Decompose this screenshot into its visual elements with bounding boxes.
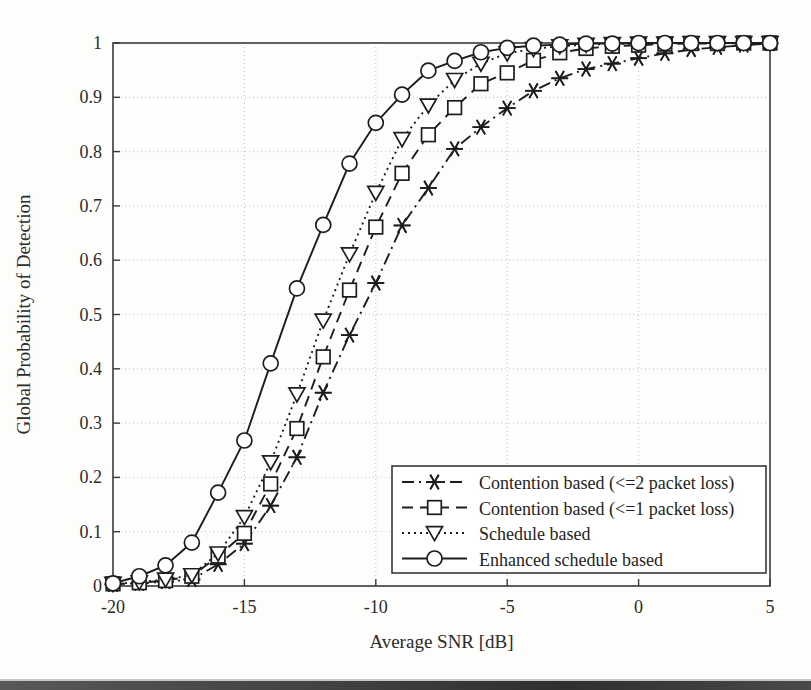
figure-page: 00.10.20.30.40.50.60.70.80.91-20-15-10-5… — [0, 0, 811, 690]
data-point-circle — [184, 535, 199, 550]
data-point-circle — [106, 576, 121, 591]
data-point-triangle-down — [420, 99, 436, 113]
x-tick-label: 5 — [766, 597, 775, 617]
chart-legend[interactable]: Contention based (<=2 packet loss)Conten… — [392, 466, 766, 573]
y-axis-title: Global Probability of Detection — [13, 194, 34, 435]
data-point-circle — [132, 569, 147, 584]
data-point-square — [395, 167, 409, 181]
x-tick-label: 0 — [634, 597, 643, 617]
y-tick-label: 0.3 — [80, 413, 103, 433]
data-point-circle — [316, 217, 331, 232]
y-tick-label: 0 — [93, 576, 102, 596]
y-tick-label: 1 — [93, 33, 102, 53]
y-tick-label: 0.7 — [80, 196, 103, 216]
data-point-square — [500, 66, 514, 80]
data-point-circle — [289, 281, 304, 296]
legend-label-1: Contention based (<=1 packet loss) — [479, 499, 734, 520]
data-point-circle — [395, 87, 410, 102]
data-point-circle — [710, 36, 725, 51]
data-point-circle — [526, 38, 541, 53]
square-icon — [428, 501, 442, 515]
data-point-circle — [447, 53, 462, 68]
data-point-circle — [605, 36, 620, 51]
y-tick-label: 0.9 — [80, 87, 103, 107]
data-point-circle — [552, 37, 567, 52]
data-point-triangle-down — [368, 186, 384, 200]
y-tick-label: 0.5 — [80, 305, 103, 325]
x-axis-title: Average SNR [dB] — [369, 631, 513, 652]
legend-label-2: Schedule based — [479, 524, 590, 544]
circle-icon — [427, 551, 442, 566]
data-point-circle — [237, 433, 252, 448]
data-point-circle — [684, 36, 699, 51]
data-point-circle — [657, 36, 672, 51]
data-point-triangle-down — [289, 388, 305, 402]
y-tick-label: 0.2 — [80, 467, 103, 487]
x-tick-label: -10 — [364, 597, 388, 617]
x-tick-label: -20 — [101, 597, 125, 617]
data-point-square — [448, 101, 462, 115]
data-point-circle — [579, 36, 594, 51]
data-point-square — [290, 422, 304, 436]
data-point-square — [343, 283, 357, 297]
data-point-square — [474, 77, 488, 91]
probability-of-detection-chart: 00.10.20.30.40.50.60.70.80.91-20-15-10-5… — [0, 0, 811, 690]
data-point-triangle-down — [447, 74, 463, 88]
legend-label-3: Enhanced schedule based — [479, 550, 663, 570]
scan-artifact-bar — [0, 681, 811, 690]
data-point-square — [238, 527, 252, 541]
data-point-square — [422, 128, 436, 142]
data-point-triangle-down — [315, 314, 331, 328]
legend-label-0: Contention based (<=2 packet loss) — [479, 473, 734, 494]
x-tick-label: -5 — [500, 597, 515, 617]
data-point-square — [264, 477, 278, 491]
data-point-circle — [473, 45, 488, 60]
y-tick-label: 0.6 — [80, 250, 103, 270]
data-point-circle — [631, 36, 646, 51]
y-tick-label: 0.8 — [80, 142, 103, 162]
data-point-square — [316, 350, 330, 364]
data-point-circle — [736, 36, 751, 51]
data-point-triangle-down — [236, 511, 252, 525]
x-tick-label: -15 — [232, 597, 256, 617]
data-point-triangle-down — [263, 456, 279, 470]
data-point-circle — [211, 485, 226, 500]
data-point-triangle-down — [394, 133, 410, 147]
data-point-circle — [500, 40, 515, 55]
data-point-circle — [763, 36, 778, 51]
data-point-circle — [368, 115, 383, 130]
data-point-circle — [342, 156, 357, 171]
data-point-circle — [158, 558, 173, 573]
y-tick-label: 0.4 — [80, 359, 103, 379]
data-point-circle — [263, 356, 278, 371]
data-point-square — [369, 220, 383, 234]
data-point-triangle-down — [342, 248, 358, 262]
data-point-circle — [421, 63, 436, 78]
chart-figure: 00.10.20.30.40.50.60.70.80.91-20-15-10-5… — [0, 0, 811, 690]
y-tick-label: 0.1 — [80, 522, 103, 542]
